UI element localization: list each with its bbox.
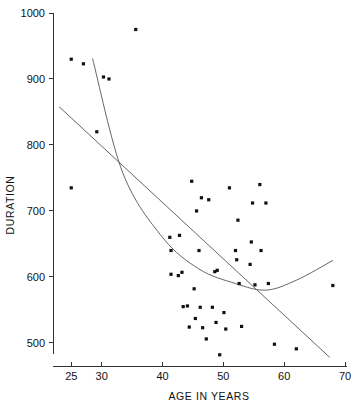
data-point-marker — [249, 263, 252, 266]
data-point-marker — [251, 201, 254, 204]
x-tick-label: 40 — [156, 370, 168, 382]
data-point-marker — [95, 130, 98, 133]
data-point-marker — [258, 183, 261, 186]
x-tick-label: 25 — [65, 370, 77, 382]
data-point-marker — [228, 186, 231, 189]
data-point-marker — [222, 311, 225, 314]
data-point-marker — [197, 249, 200, 252]
data-point-marker — [134, 28, 137, 31]
data-point-marker — [235, 258, 238, 261]
data-point-marker — [267, 282, 270, 285]
scatter-plot-figure: 5006007008009001000253040506070AGE IN YE… — [0, 0, 361, 415]
x-axis-title: AGE IN YEARS — [168, 390, 249, 402]
data-point-marker — [186, 304, 189, 307]
data-point-marker — [236, 219, 239, 222]
data-point-marker — [259, 249, 262, 252]
data-point-marker — [200, 196, 203, 199]
data-point-marker — [70, 58, 73, 61]
data-point-marker — [201, 326, 204, 329]
data-point-marker — [195, 209, 198, 212]
data-point-marker — [177, 274, 180, 277]
data-point-marker — [70, 186, 73, 189]
data-point-marker — [273, 343, 276, 346]
data-point-marker — [169, 249, 172, 252]
data-point-marker — [218, 353, 221, 356]
quadratic-fit-curve — [93, 59, 333, 291]
data-point-marker — [178, 234, 181, 237]
data-point-marker — [190, 180, 193, 183]
data-point-marker — [193, 287, 196, 290]
data-point-marker — [102, 75, 105, 78]
data-point-marker — [182, 305, 185, 308]
data-point-marker — [250, 240, 253, 243]
y-tick-label: 900 — [27, 73, 45, 85]
data-point-marker — [264, 201, 267, 204]
data-point-marker — [224, 327, 227, 330]
chart-canvas: 5006007008009001000253040506070AGE IN YE… — [0, 0, 361, 415]
data-point-marker — [207, 198, 210, 201]
data-point-marker — [169, 273, 172, 276]
data-point-marker — [168, 236, 171, 239]
y-tick-label: 600 — [27, 271, 45, 283]
data-point-marker — [253, 283, 256, 286]
data-point-marker — [211, 306, 214, 309]
data-point-marker — [194, 317, 197, 320]
x-tick-label: 70 — [339, 370, 351, 382]
data-point-marker — [234, 249, 237, 252]
data-point-marker — [238, 282, 241, 285]
data-point-marker — [188, 325, 191, 328]
x-tick-label: 30 — [96, 370, 108, 382]
y-tick-label: 700 — [27, 205, 45, 217]
data-point-marker — [205, 337, 208, 340]
y-tick-label: 800 — [27, 139, 45, 151]
data-point-marker — [295, 347, 298, 350]
data-point-marker — [180, 271, 183, 274]
y-tick-label: 500 — [27, 337, 45, 349]
y-axis-title: DURATION — [4, 176, 16, 235]
y-tick-label: 1000 — [21, 7, 45, 19]
data-point-marker — [216, 269, 219, 272]
x-tick-label: 50 — [217, 370, 229, 382]
x-tick-label: 60 — [278, 370, 290, 382]
data-point-marker — [214, 321, 217, 324]
data-point-marker — [331, 284, 334, 287]
data-point-marker — [199, 306, 202, 309]
data-point-marker — [82, 62, 85, 65]
data-point-marker — [240, 325, 243, 328]
data-point-marker — [107, 77, 110, 80]
